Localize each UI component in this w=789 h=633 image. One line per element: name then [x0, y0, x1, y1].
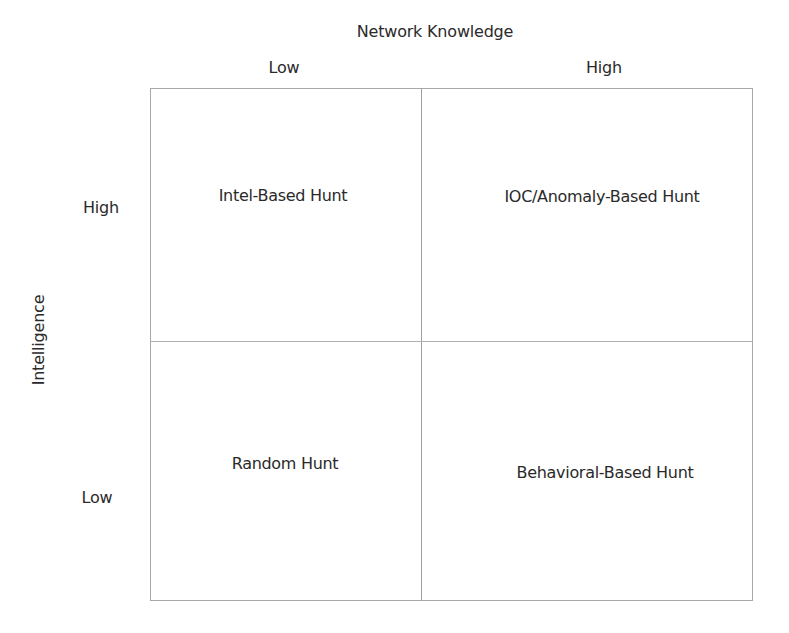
matrix-vertical-divider: [421, 88, 422, 601]
cell-intel-based-hunt: Intel-Based Hunt: [219, 186, 348, 205]
x-axis-title: Network Knowledge: [357, 22, 513, 41]
row-label-high: High: [83, 198, 119, 217]
column-label-low: Low: [269, 58, 300, 77]
matrix-frame: [150, 88, 753, 601]
row-label-low: Low: [82, 488, 113, 507]
cell-ioc-anomaly-based-hunt: IOC/Anomaly-Based Hunt: [504, 187, 699, 206]
matrix-horizontal-divider: [150, 341, 753, 342]
cell-behavioral-based-hunt: Behavioral-Based Hunt: [517, 463, 694, 482]
column-label-high: High: [586, 58, 622, 77]
y-axis-title: Intelligence: [29, 295, 48, 386]
cell-random-hunt: Random Hunt: [232, 454, 339, 473]
